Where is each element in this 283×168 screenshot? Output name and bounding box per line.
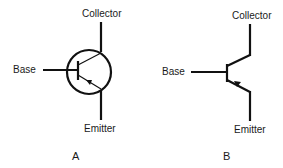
- transistor-symbol-b: [191, 24, 250, 121]
- base-label-b: Base: [162, 66, 185, 77]
- caption-b: B: [223, 150, 230, 162]
- collector-label-a: Collector: [82, 8, 121, 19]
- caption-a: A: [72, 150, 79, 162]
- envelope-circle: [67, 50, 111, 94]
- emitter-label-b: Emitter: [234, 124, 266, 135]
- collector-label-b: Collector: [232, 10, 271, 21]
- transistor-diagrams: [0, 0, 283, 168]
- collector-diagonal: [227, 55, 250, 66]
- base-label-a: Base: [13, 64, 36, 75]
- transistor-symbol-a: [43, 22, 111, 120]
- collector-diagonal: [78, 53, 101, 65]
- emitter-label-a: Emitter: [84, 123, 116, 134]
